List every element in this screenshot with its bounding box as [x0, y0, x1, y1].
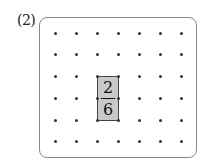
grid-dot	[75, 32, 78, 35]
grid-dot	[75, 119, 78, 122]
grid-dot	[75, 97, 78, 100]
grid-dot	[96, 32, 99, 35]
grid-dot	[180, 119, 183, 122]
grid-dot	[159, 32, 162, 35]
grid-dot	[159, 140, 162, 143]
grid-dot	[138, 53, 141, 56]
grid-dot	[96, 53, 99, 56]
fraction-denominator: 6	[103, 101, 113, 118]
grid-dot	[96, 75, 99, 78]
fraction-bar	[101, 98, 115, 99]
grid-dot	[180, 32, 183, 35]
grid-dot	[54, 97, 57, 100]
grid-dot	[96, 97, 99, 100]
grid-dot	[138, 32, 141, 35]
grid-dot	[159, 97, 162, 100]
grid-dot	[159, 53, 162, 56]
grid-dot	[117, 32, 120, 35]
grid-dot	[54, 75, 57, 78]
grid-dot	[117, 53, 120, 56]
grid-dot	[138, 75, 141, 78]
grid-dot	[117, 140, 120, 143]
grid-dot	[180, 75, 183, 78]
grid-dot	[54, 53, 57, 56]
problem-label: (2)	[17, 12, 35, 28]
grid-dot	[159, 119, 162, 122]
grid-dot	[180, 53, 183, 56]
grid-dot	[96, 140, 99, 143]
grid-dot	[75, 140, 78, 143]
grid-dot	[54, 140, 57, 143]
grid-dot	[54, 32, 57, 35]
grid-dot	[96, 119, 99, 122]
grid-dot	[138, 140, 141, 143]
grid-dot	[117, 119, 120, 122]
grid-dot	[138, 119, 141, 122]
grid-dot	[180, 97, 183, 100]
grid-dot	[117, 75, 120, 78]
fraction-label: 2 6	[97, 76, 119, 121]
grid-dot	[138, 97, 141, 100]
grid-dot	[54, 119, 57, 122]
grid-dot	[117, 97, 120, 100]
fraction-numerator: 2	[103, 79, 113, 96]
grid-dot	[75, 53, 78, 56]
grid-dot	[159, 75, 162, 78]
grid-dot	[75, 75, 78, 78]
grid-dot	[180, 140, 183, 143]
